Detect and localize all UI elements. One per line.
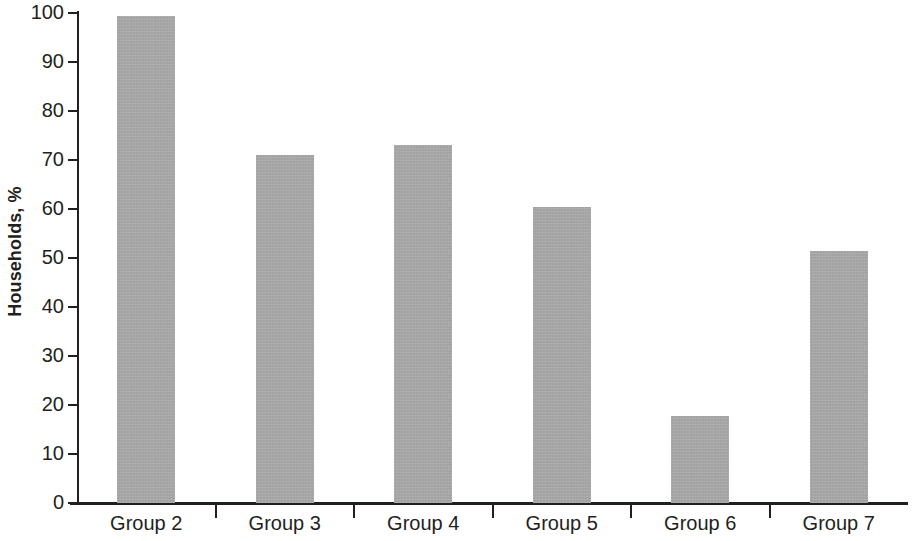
y-tick-mark — [68, 355, 77, 357]
y-tick-label-text: 90 — [2, 51, 64, 71]
y-tick-mark — [68, 208, 77, 210]
y-tick-mark — [68, 404, 77, 406]
bar — [533, 207, 591, 503]
x-axis-label: Group 4 — [354, 511, 493, 535]
bar — [117, 16, 175, 503]
y-tick-mark — [68, 12, 77, 14]
bar — [394, 145, 452, 503]
bar — [671, 416, 729, 503]
y-tick-label-text: 30 — [2, 345, 64, 365]
x-axis-label: Group 7 — [770, 511, 909, 535]
y-tick-label-text: 0 — [2, 492, 64, 512]
y-tick-label: 70 — [0, 149, 64, 169]
y-tick-label-text: 70 — [2, 149, 64, 169]
y-tick-label: 100 — [0, 2, 64, 22]
y-tick-label: 60 — [0, 198, 64, 218]
x-axis-label: Group 6 — [631, 511, 770, 535]
y-tick-label: 10 — [0, 443, 64, 463]
y-tick-label-text: 80 — [2, 100, 64, 120]
y-tick-label: 20 — [0, 394, 64, 414]
y-tick-mark — [68, 110, 77, 112]
plot-area — [77, 13, 908, 503]
bar — [256, 155, 314, 503]
y-tick-label: 40 — [0, 296, 64, 316]
y-tick-mark — [68, 453, 77, 455]
x-axis-label: Group 5 — [493, 511, 632, 535]
y-tick-label: 30 — [0, 345, 64, 365]
y-tick-label: 0 — [0, 492, 64, 512]
y-tick-label-text: 20 — [2, 394, 64, 414]
y-tick-label: 80 — [0, 100, 64, 120]
y-tick-label: 50 — [0, 247, 64, 267]
y-tick-label: 90 — [0, 51, 64, 71]
y-tick-label-text: 60 — [2, 198, 64, 218]
y-tick-label-text: 10 — [2, 443, 64, 463]
y-tick-mark — [68, 306, 77, 308]
y-tick-label-text: 100 — [2, 2, 64, 22]
bar-chart: Households, % 1009080706050403020100 Gro… — [0, 0, 917, 541]
y-tick-label-text: 40 — [2, 296, 64, 316]
y-tick-label-text: 50 — [2, 247, 64, 267]
y-tick-mark — [68, 159, 77, 161]
x-axis-label: Group 3 — [216, 511, 355, 535]
y-tick-mark — [68, 61, 77, 63]
y-tick-mark — [68, 257, 77, 259]
x-axis-label: Group 2 — [77, 511, 216, 535]
bar — [810, 251, 868, 503]
